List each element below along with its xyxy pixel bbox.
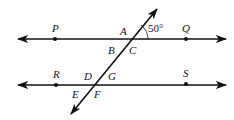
label-angle-c: C xyxy=(129,44,137,56)
label-angle-b: B xyxy=(108,44,115,56)
label-q: Q xyxy=(182,22,190,34)
label-s: S xyxy=(183,67,189,79)
label-angle-f: F xyxy=(93,88,101,100)
point-r xyxy=(54,83,58,87)
point-q xyxy=(184,37,188,41)
label-angle-g: G xyxy=(108,70,116,82)
geometry-diagram: P Q R S A B C 50° D G E F xyxy=(0,0,234,120)
point-s xyxy=(184,82,188,86)
label-p: P xyxy=(51,22,59,34)
label-angle-a: A xyxy=(119,25,127,37)
point-p xyxy=(53,37,57,41)
label-angle-d: D xyxy=(83,70,92,82)
transversal-line xyxy=(71,9,157,114)
label-given-angle: 50° xyxy=(148,22,163,34)
label-r: R xyxy=(52,68,60,80)
label-angle-e: E xyxy=(71,88,79,100)
